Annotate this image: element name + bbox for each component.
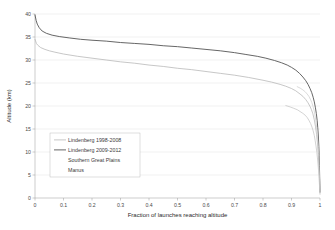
x-tick-label: 0.6 — [202, 202, 209, 208]
x-tick-label: 0.8 — [259, 202, 266, 208]
y-tick-label: 40 — [25, 11, 31, 17]
y-tick-label: 15 — [25, 126, 31, 132]
x-tick-label: 0.2 — [88, 202, 95, 208]
x-tick-label: 0.4 — [145, 202, 152, 208]
line-chart: 0510152025303540 00.10.20.30.40.50.60.70… — [0, 0, 335, 230]
chart-legend: Lindenberg 1998-2008Lindenberg 2009-2012… — [50, 133, 140, 177]
x-tick-label: 0.1 — [60, 202, 67, 208]
legend-label: Lindenberg 2009-2012 — [68, 147, 121, 153]
x-tick-label: 1 — [319, 202, 322, 208]
x-tick-labels: 00.10.20.30.40.50.60.70.80.91 — [34, 202, 322, 208]
y-axis-title: Altitude (km) — [6, 89, 12, 123]
x-tick-label: 0 — [34, 202, 37, 208]
legend-label: Southern Great Plains — [68, 157, 120, 163]
series-line — [286, 106, 320, 195]
y-tick-marks — [33, 14, 36, 198]
legend-label: Lindenberg 1998-2008 — [68, 137, 121, 143]
y-tick-label: 5 — [28, 172, 31, 178]
series-line — [297, 87, 320, 193]
x-tick-label: 0.7 — [231, 202, 238, 208]
x-tick-label: 0.9 — [288, 202, 295, 208]
x-axis-title: Fraction of launches reaching altitude — [128, 212, 228, 218]
y-tick-label: 0 — [28, 195, 31, 201]
legend-label: Manus — [68, 167, 84, 173]
x-tick-label: 0.5 — [174, 202, 181, 208]
x-tick-marks — [35, 198, 320, 201]
y-tick-label: 35 — [25, 34, 31, 40]
y-tick-label: 25 — [25, 80, 31, 86]
y-tick-label: 30 — [25, 57, 31, 63]
y-tick-label: 10 — [25, 149, 31, 155]
x-tick-label: 0.3 — [117, 202, 124, 208]
y-tick-label: 20 — [25, 103, 31, 109]
y-tick-labels: 0510152025303540 — [25, 11, 31, 201]
chart-container: 0510152025303540 00.10.20.30.40.50.60.70… — [0, 0, 335, 230]
